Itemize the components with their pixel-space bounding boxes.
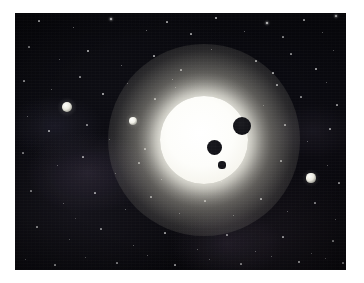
film-grain-overlay [15,13,346,270]
astronomy-photo [15,13,346,270]
image-canvas: A bright white host star with three dark… [0,0,364,283]
